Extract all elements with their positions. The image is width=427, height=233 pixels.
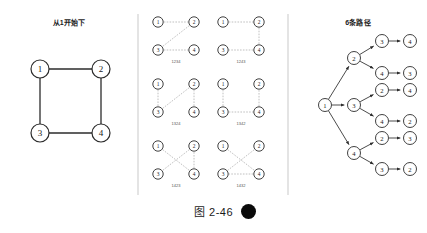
figure-caption-text: 图 2-46 (194, 206, 233, 218)
node-label: 1 (222, 81, 225, 87)
node-label: 2 (352, 55, 355, 62)
pattern-label: 1324 (172, 121, 182, 126)
node-label: 2 (193, 143, 196, 149)
node-label: 2 (193, 81, 196, 87)
tree-arrow (329, 111, 349, 145)
node-label: 2 (380, 135, 383, 142)
node-label: 3 (222, 171, 225, 177)
node-label: 2 (99, 64, 104, 74)
tree-arrow (360, 108, 374, 116)
node-label: 1 (157, 143, 160, 149)
left-square-graph: 1234 (31, 60, 110, 142)
node-label: 3 (222, 109, 225, 115)
pattern-path-edge (228, 150, 255, 171)
node-label: 1 (157, 81, 160, 87)
tree-arrow (360, 61, 373, 68)
node-label: 3 (157, 109, 160, 115)
pattern-path-edge (163, 88, 190, 109)
node-label: 2 (258, 19, 261, 25)
node-label: 2 (193, 19, 196, 25)
node-label: 1 (323, 102, 326, 109)
node-label: 3 (222, 47, 225, 53)
node-label: 3 (157, 171, 160, 177)
tree-arrow (329, 66, 349, 99)
pattern-path-edge (163, 26, 190, 47)
node-label: 1 (157, 19, 160, 25)
right-path-tree: 1234433244242332 (319, 35, 417, 176)
node-label: 3 (157, 47, 160, 53)
node-label: 2 (258, 81, 261, 87)
pattern-path-edge (163, 150, 190, 171)
crescent-moon-icon (171, 203, 187, 219)
pattern-label: 1423 (172, 183, 182, 188)
node-label: 3 (38, 128, 43, 138)
node-label: 2 (380, 87, 383, 94)
node-label: 4 (193, 109, 196, 115)
tree-arrow (360, 143, 373, 150)
pattern-path-edge (163, 150, 190, 171)
node-label: 1 (222, 19, 225, 25)
node-label: 4 (258, 109, 261, 115)
node-label: 1 (38, 64, 43, 74)
node-label: 2 (258, 143, 261, 149)
node-label: 4 (193, 47, 196, 53)
node-label: 1 (222, 143, 225, 149)
tree-arrow (360, 95, 373, 102)
pattern-label: 1234 (172, 59, 182, 64)
pattern-label: 1342 (237, 121, 247, 126)
pattern-path-edge (228, 150, 255, 171)
node-label: 4 (258, 171, 261, 177)
node-label: 2 (408, 166, 411, 173)
pattern-label: 1243 (237, 59, 247, 64)
figure-vector-layer: 1234 12341234123412431234132412341342123… (0, 0, 427, 233)
pattern-label: 1432 (237, 183, 247, 188)
tree-arrow (360, 156, 374, 164)
node-label: 4 (258, 47, 261, 53)
node-label: 2 (408, 118, 411, 125)
filled-circle-icon (241, 204, 256, 219)
node-label: 4 (193, 171, 196, 177)
node-label: 4 (99, 128, 104, 138)
figure-caption-row: 图 2-46 (0, 203, 427, 219)
figure-page: 从1开始下 6条路径 1234 123412341234124312341324… (0, 0, 427, 233)
panel-dividers (138, 14, 288, 195)
middle-permutation-grid: 1234123412341243123413241234134212341423… (153, 17, 264, 188)
tree-arrow (360, 46, 374, 54)
